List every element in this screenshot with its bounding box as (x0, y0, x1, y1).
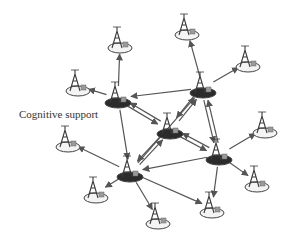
equipment-box-icon (190, 29, 195, 34)
equipment-box-icon (222, 154, 227, 159)
edge-arrow (127, 106, 158, 124)
equipment-box-icon (99, 192, 104, 197)
edge-arrow (143, 157, 207, 169)
edge-arrow (130, 103, 161, 121)
radio-node-n4 (236, 46, 260, 72)
node-base-ellipse (175, 30, 199, 40)
edge-arrow (120, 110, 128, 159)
equipment-box-icon (173, 128, 178, 133)
radio-node-n7 (200, 192, 224, 218)
node-base-ellipse (157, 129, 183, 139)
node-base-ellipse (206, 155, 232, 165)
edge-arrow (141, 177, 202, 204)
nodes-layer (56, 14, 277, 229)
node-base-ellipse (190, 88, 216, 98)
network-graph (0, 0, 303, 241)
edge-arrow (136, 182, 152, 209)
equipment-box-icon (81, 85, 86, 90)
equipment-box-icon (260, 181, 265, 186)
equipment-box-icon (123, 42, 128, 47)
equipment-box-icon (121, 97, 126, 102)
node-base-ellipse (245, 182, 269, 192)
edge-arrow (229, 162, 248, 176)
node-base-ellipse (108, 43, 132, 53)
cognitive-hub-node-hub-b (190, 72, 216, 98)
node-base-ellipse (66, 86, 90, 96)
equipment-box-icon (161, 218, 166, 223)
network-diagram: Cognitive support (0, 0, 303, 241)
radio-node-n6 (245, 166, 269, 192)
radio-node-n5 (253, 112, 277, 138)
edge-arrow (105, 178, 119, 187)
radio-node-n3 (175, 14, 199, 40)
equipment-box-icon (71, 141, 76, 146)
radio-node-n8 (146, 203, 170, 229)
edge-arrow (131, 89, 191, 96)
cognitive-hub-node-hub-c (157, 113, 183, 139)
node-base-ellipse (84, 193, 108, 203)
cognitive-support-label: Cognitive support (19, 108, 98, 120)
node-base-ellipse (56, 142, 80, 152)
radio-node-n9 (84, 177, 108, 203)
edge-arrow (213, 68, 238, 82)
node-base-ellipse (117, 172, 143, 182)
equipment-box-icon (133, 171, 138, 176)
node-base-ellipse (105, 98, 131, 108)
edge-arrow (213, 167, 217, 197)
node-base-ellipse (236, 62, 260, 72)
equipment-box-icon (251, 61, 256, 66)
edge-arrow (89, 89, 107, 94)
equipment-box-icon (206, 87, 211, 92)
edge-arrow (229, 134, 255, 149)
edge-arrow (190, 41, 200, 77)
edge-arrow (179, 99, 196, 121)
radio-node-n10 (56, 126, 80, 152)
cognitive-hub-node-hub-d (206, 139, 232, 165)
edge-arrow (177, 96, 194, 118)
node-base-ellipse (146, 219, 170, 229)
radio-node-n2 (66, 70, 90, 96)
edges-layer (78, 41, 256, 210)
edge-arrow (78, 147, 119, 167)
radio-node-n1 (108, 27, 132, 53)
node-base-ellipse (200, 208, 224, 218)
edge-arrow (118, 54, 119, 86)
edge-arrow (137, 136, 160, 161)
equipment-box-icon (268, 127, 273, 132)
equipment-box-icon (215, 207, 220, 212)
edge-arrow (140, 140, 163, 165)
node-base-ellipse (253, 128, 277, 138)
